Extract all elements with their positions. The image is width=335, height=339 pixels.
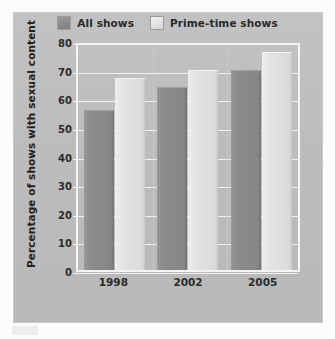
legend-label-prime-time-shows: Prime-time shows [170,17,278,29]
legend-item-prime-time-shows[interactable]: Prime-time shows [150,16,278,30]
y-tick-label-60: 60 [58,95,72,106]
page-artifact [12,326,38,335]
y-tick-0 [73,273,78,274]
bar-groups [78,45,298,270]
legend-item-all-shows[interactable]: All shows [57,16,134,30]
legend-label-all-shows: All shows [77,17,134,29]
gridline-0 [78,273,298,274]
chart-figure: All shows Prime-time shows Percentage of… [0,0,335,339]
y-axis-title: Percentage of shows with sexual content [25,58,37,268]
x-axis-tick-labels: 199820022005 [76,276,300,288]
x-tick-label-2005: 2005 [225,276,300,288]
bar-group-1998 [78,45,151,270]
y-tick-label-0: 0 [65,267,72,278]
bar-2002-prime-time-shows[interactable] [188,70,218,270]
bar-2005-prime-time-shows[interactable] [262,52,292,270]
bar-group-2005 [225,45,298,270]
chart-legend: All shows Prime-time shows [0,16,335,30]
bar-group-2002 [151,45,224,270]
x-tick-label-2002: 2002 [151,276,226,288]
y-tick-label-50: 50 [58,123,72,134]
bar-2002-all-shows[interactable] [157,87,187,270]
legend-swatch-prime-time-shows [150,16,164,30]
y-tick-label-10: 10 [58,238,72,249]
bar-1998-prime-time-shows[interactable] [115,78,145,270]
bar-1998-all-shows[interactable] [84,110,114,270]
plot-area [76,43,300,272]
y-tick-label-30: 30 [58,181,72,192]
bar-2005-all-shows[interactable] [231,70,261,270]
y-tick-label-40: 40 [58,152,72,163]
x-tick-label-1998: 1998 [76,276,151,288]
y-tick-label-20: 20 [58,209,72,220]
legend-swatch-all-shows [57,16,71,30]
y-tick-label-70: 70 [58,66,72,77]
y-axis-tick-labels: 80706050403020100 [46,43,72,272]
y-tick-label-80: 80 [58,38,72,49]
